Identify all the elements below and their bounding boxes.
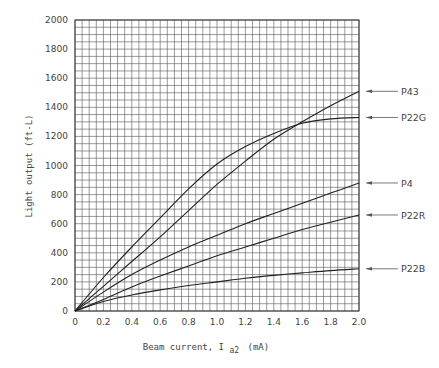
x-axis-ticks: 00.20.40.60.81.01.21.41.61.82.0 — [72, 317, 366, 327]
x-axis-label: Beam current, I a2 (mA) — [143, 342, 269, 355]
y-tick-label: 800 — [51, 190, 68, 200]
legend-item-p22b: P22B — [366, 263, 425, 274]
x-tick-label: 2.0 — [352, 317, 367, 327]
arrow-left-icon — [366, 116, 372, 120]
x-tick-label: 1.8 — [323, 317, 338, 327]
legend-label: P22G — [401, 112, 426, 123]
x-tick-label: 0 — [72, 317, 78, 327]
legend-item-p22g: P22G — [366, 112, 426, 123]
y-tick-label: 400 — [51, 248, 68, 258]
legend-label: P43 — [401, 86, 419, 97]
x-axis-label-sub: a2 — [229, 346, 239, 355]
x-tick-label: 1.0 — [210, 317, 225, 327]
x-tick-label: 1.2 — [238, 317, 252, 327]
arrow-left-icon — [366, 89, 372, 93]
x-tick-label: 1.4 — [267, 317, 282, 327]
y-tick-label: 1800 — [45, 44, 68, 54]
y-tick-label: 0 — [62, 306, 68, 316]
light-output-chart: 0200400600800100012001400160018002000 00… — [0, 0, 439, 368]
legend-label: P4 — [401, 178, 413, 189]
y-tick-label: 1200 — [45, 131, 68, 141]
grid — [75, 20, 359, 311]
y-tick-label: 200 — [51, 277, 68, 287]
arrow-left-icon — [366, 267, 372, 271]
legend-item-p22r: P22R — [366, 210, 426, 221]
x-axis-label-main: Beam current, I — [143, 342, 224, 352]
y-axis-label: Light output (ft-L) — [24, 115, 34, 218]
x-axis-label-unit: (mA) — [248, 342, 270, 352]
y-tick-label: 2000 — [45, 15, 68, 25]
legend: P43P22GP4P22RP22B — [366, 86, 426, 274]
x-tick-label: 0.4 — [125, 317, 140, 327]
x-tick-label: 1.6 — [295, 317, 310, 327]
y-tick-label: 1000 — [45, 161, 68, 171]
legend-label: P22B — [401, 263, 425, 274]
y-axis-ticks: 0200400600800100012001400160018002000 — [45, 15, 68, 316]
y-tick-label: 1400 — [45, 102, 68, 112]
legend-item-p43: P43 — [366, 86, 419, 97]
arrow-left-icon — [366, 213, 372, 217]
legend-item-p4: P4 — [366, 178, 413, 189]
arrow-left-icon — [366, 181, 372, 185]
y-tick-label: 1600 — [45, 73, 68, 83]
legend-label: P22R — [401, 210, 426, 221]
x-tick-label: 0.8 — [181, 317, 196, 327]
y-tick-label: 600 — [51, 219, 68, 229]
x-tick-label: 0.2 — [96, 317, 110, 327]
x-tick-label: 0.6 — [153, 317, 168, 327]
